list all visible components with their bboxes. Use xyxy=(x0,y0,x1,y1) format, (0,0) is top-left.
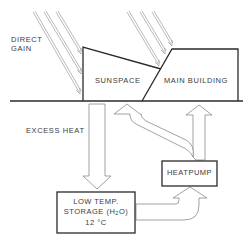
storage-line2-suffix: O) xyxy=(119,207,128,216)
storage-line2: STORAGE (H2O) xyxy=(57,207,135,218)
heatpump-to-sunspace-arrow-icon xyxy=(114,104,193,157)
sunspace-outline xyxy=(83,47,161,101)
main-building-label: MAIN BUILDING xyxy=(164,76,228,85)
storage-to-heatpump-arrow-icon xyxy=(136,187,207,220)
storage-label: LOW TEMP. STORAGE (H2O) 12 °C xyxy=(57,197,135,228)
sun-rays-main-building-icon xyxy=(127,11,173,66)
storage-line2-prefix: STORAGE (H xyxy=(64,207,116,216)
excess-heat-arrow-icon xyxy=(83,104,111,189)
direct-gain-label: DIRECT GAIN xyxy=(11,35,43,53)
direct-gain-line1: DIRECT xyxy=(11,35,43,44)
direct-gain-line2: GAIN xyxy=(11,44,43,53)
heatpump-label: HEATPUMP xyxy=(162,168,217,178)
storage-line1: LOW TEMP. xyxy=(57,197,135,207)
storage-line3: 12 °C xyxy=(57,218,135,228)
sunspace-label: SUNSPACE xyxy=(95,76,141,85)
excess-heat-label: EXCESS HEAT xyxy=(26,126,85,135)
